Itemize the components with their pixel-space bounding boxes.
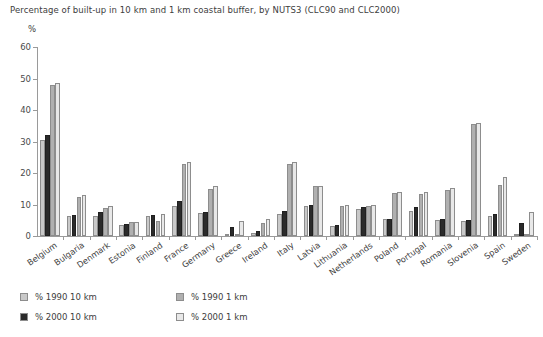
bar xyxy=(277,214,282,236)
legend-label: % 2000 1 km xyxy=(191,312,247,322)
x-axis-tick-mark xyxy=(169,236,170,240)
bar xyxy=(488,216,493,236)
bar xyxy=(330,226,335,236)
bar xyxy=(409,211,414,236)
bar xyxy=(103,208,108,236)
bar-group xyxy=(435,47,454,236)
x-axis-category-label: Greece xyxy=(213,240,243,265)
bar xyxy=(67,216,72,236)
x-axis-category-label: Sweden xyxy=(500,240,533,267)
bar-group xyxy=(251,47,270,236)
bar xyxy=(424,192,429,236)
bar xyxy=(471,124,476,236)
bar-group xyxy=(198,47,217,236)
bar-group xyxy=(225,47,244,236)
x-axis-tick-mark xyxy=(248,236,249,240)
x-axis-tick-mark xyxy=(274,236,275,240)
bar xyxy=(524,234,529,236)
bar xyxy=(266,219,271,236)
bar xyxy=(498,185,503,236)
legend-swatch-icon xyxy=(176,293,184,301)
bar xyxy=(40,140,45,236)
bar-group xyxy=(67,47,86,236)
bar xyxy=(366,206,371,236)
x-axis-tick-mark xyxy=(116,236,117,240)
x-axis-tick-mark xyxy=(300,236,301,240)
bar xyxy=(519,223,524,236)
bar xyxy=(213,186,218,236)
bar xyxy=(156,221,161,236)
bar xyxy=(309,205,314,237)
bar-group xyxy=(356,47,375,236)
bar xyxy=(419,194,424,236)
bar-group xyxy=(119,47,138,236)
y-axis-tick-mark xyxy=(33,205,37,206)
y-axis-tick-mark xyxy=(33,236,37,237)
bar xyxy=(177,201,182,236)
bar xyxy=(203,212,208,236)
bar xyxy=(304,206,309,236)
bar xyxy=(503,177,508,236)
bar xyxy=(161,214,166,236)
legend-label: % 2000 10 km xyxy=(35,312,97,322)
bar xyxy=(55,83,60,236)
x-axis-tick-mark xyxy=(379,236,380,240)
bar xyxy=(445,190,450,236)
bar xyxy=(198,213,203,236)
bar xyxy=(256,231,261,236)
bar xyxy=(72,215,77,236)
bar xyxy=(146,216,151,236)
bar xyxy=(450,188,455,236)
bar xyxy=(371,205,376,237)
bar xyxy=(108,206,113,236)
y-axis-tick-mark xyxy=(33,173,37,174)
bar xyxy=(82,195,87,236)
bar xyxy=(461,221,466,236)
bar-group xyxy=(146,47,165,236)
x-axis-tick-mark xyxy=(63,236,64,240)
bar-group xyxy=(461,47,480,236)
bar xyxy=(435,220,440,236)
y-axis-tick-mark xyxy=(33,142,37,143)
bar xyxy=(172,206,177,236)
bar xyxy=(235,234,240,236)
x-axis-tick-mark xyxy=(90,236,91,240)
bar xyxy=(124,224,129,236)
bar xyxy=(98,212,103,236)
bar-group xyxy=(383,47,402,236)
bar xyxy=(345,205,350,237)
bar xyxy=(466,220,471,236)
bar xyxy=(292,162,297,236)
x-axis-tick-mark xyxy=(511,236,512,240)
x-axis-tick-mark xyxy=(353,236,354,240)
bar xyxy=(514,234,519,236)
x-axis-tick-mark xyxy=(484,236,485,240)
bar xyxy=(134,222,139,236)
bar-group xyxy=(93,47,112,236)
legend-item[interactable]: % 2000 1 km xyxy=(176,312,247,322)
legend-item[interactable]: % 1990 1 km xyxy=(176,292,247,302)
x-axis-tick-mark xyxy=(195,236,196,240)
legend-item[interactable]: % 1990 10 km xyxy=(20,292,97,302)
bar-group xyxy=(330,47,349,236)
bar xyxy=(318,186,323,236)
bar-group xyxy=(304,47,323,236)
legend-item[interactable]: % 2000 10 km xyxy=(20,312,97,322)
bar xyxy=(356,209,361,236)
bar xyxy=(261,223,266,236)
x-axis-category-label: Finland xyxy=(134,240,164,265)
bar xyxy=(397,192,402,236)
plot-area: 0102030405060 xyxy=(37,47,537,236)
legend-swatch-icon xyxy=(20,293,28,301)
x-axis-category-label: Estonia xyxy=(107,240,138,266)
bar-group xyxy=(514,47,533,236)
bar xyxy=(50,85,55,236)
x-axis-category-label: Ireland xyxy=(240,240,269,265)
bar xyxy=(151,215,156,236)
bar xyxy=(93,216,98,236)
bar xyxy=(282,211,287,237)
bar xyxy=(251,233,256,236)
bar xyxy=(361,207,366,236)
bar xyxy=(239,221,244,236)
chart-title: Percentage of built-up in 10 km and 1 km… xyxy=(10,5,400,15)
